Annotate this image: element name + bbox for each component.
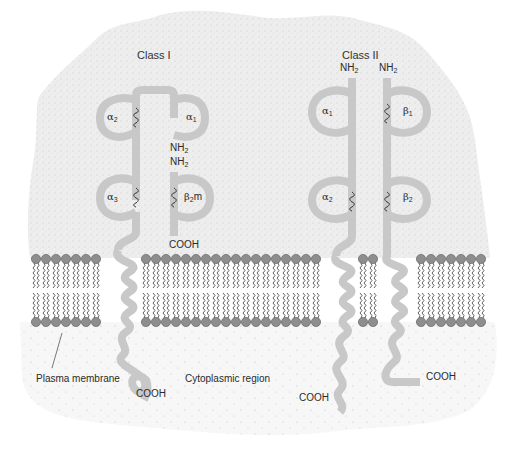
- class-i-alpha2-label: α2: [107, 112, 118, 123]
- extracellular-region: [28, 11, 490, 258]
- mhc-diagram: Class I Class II α2 α1 α3 β2m NH2 NH2 CO…: [0, 0, 506, 449]
- class-ii-alpha1-label: α1: [322, 106, 333, 117]
- class-ii-beta-n-terminus: NH2: [379, 63, 397, 74]
- class-i-alpha-n-terminus: NH2: [170, 143, 188, 154]
- class-ii-alpha-n-terminus: NH2: [340, 63, 358, 74]
- class-i-beta2m-label: β2m: [184, 192, 202, 203]
- class-i-alpha-c-terminus: COOH: [136, 389, 166, 399]
- plasma-membrane-bilayer: [31, 254, 485, 326]
- plasma-membrane-label: Plasma membrane: [36, 374, 120, 384]
- class-ii-alpha2-label: α2: [322, 192, 333, 203]
- class-ii-alpha-c-terminus: COOH: [299, 393, 329, 403]
- class-i-alpha1-label: α1: [186, 112, 197, 123]
- class-ii-beta-c-terminus: COOH: [426, 372, 456, 382]
- class-i-beta2m-c-terminus: COOH: [169, 240, 199, 250]
- class-i-alpha3-label: α3: [107, 192, 118, 203]
- cytoplasmic-region-label: Cytoplasmic region: [185, 374, 270, 384]
- class-ii-beta2-label: β2: [403, 192, 413, 203]
- class-ii-title: Class II: [342, 50, 379, 61]
- class-ii-beta1-label: β1: [403, 106, 413, 117]
- class-i-title: Class I: [137, 50, 171, 61]
- class-i-beta2m-n-terminus: NH2: [170, 157, 188, 168]
